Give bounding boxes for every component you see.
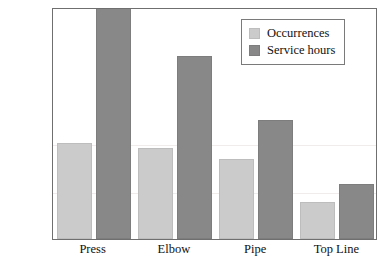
y-axis: 0831662493324154985816647478309139961079… — [0, 0, 52, 240]
x-axis-label-top-line: Top Line — [314, 242, 359, 257]
x-axis-label-elbow: Elbow — [158, 242, 191, 257]
bar-chart: 0831662493324154985816647478309139961079… — [0, 0, 384, 269]
bar-top-line-occurrences — [300, 202, 335, 239]
legend-item-service-hours: Service hours — [249, 42, 335, 59]
bar-elbow-occurrences — [138, 148, 173, 239]
legend-swatch-occurrences — [249, 28, 260, 39]
bar-pipe-service-hours — [258, 120, 293, 239]
bar-press-occurrences — [57, 143, 92, 239]
legend-swatch-service-hours — [249, 45, 260, 56]
bar-elbow-service-hours — [177, 56, 212, 239]
chart-legend: Occurrences Service hours — [241, 19, 345, 65]
legend-item-occurrences: Occurrences — [249, 25, 335, 42]
legend-label-service-hours: Service hours — [267, 44, 335, 57]
x-axis-labels: PressElbowPipeTop Line — [52, 242, 377, 267]
bar-top-line-service-hours — [339, 184, 374, 239]
x-axis-label-press: Press — [79, 242, 105, 257]
x-axis-label-pipe: Pipe — [244, 242, 266, 257]
bar-press-service-hours — [96, 8, 131, 239]
legend-label-occurrences: Occurrences — [267, 27, 329, 40]
bar-pipe-occurrences — [219, 159, 254, 239]
